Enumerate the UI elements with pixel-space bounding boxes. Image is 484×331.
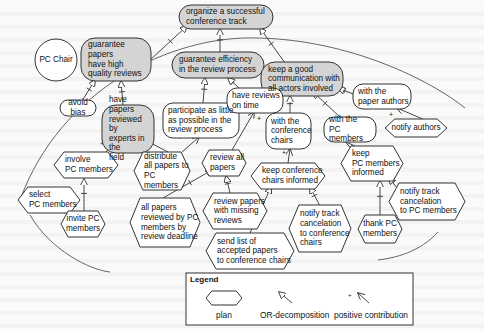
goal-model-diagram: +++++++ + PC Chairorganize a successful … [0, 0, 484, 331]
plus-sign: + [257, 115, 261, 122]
plan-p_involve[interactable] [54, 152, 118, 178]
legend-title: Legend [190, 275, 218, 284]
or-decomposition-link [260, 28, 285, 63]
plan-p_send_list[interactable] [206, 233, 294, 269]
goal-g_efficiency[interactable] [172, 52, 264, 78]
softgoal-s_pcmembers[interactable] [324, 117, 376, 142]
plan-p_review_all[interactable] [202, 150, 246, 176]
goal-g_quality[interactable] [81, 38, 151, 81]
plan-p_notify_pc[interactable] [389, 183, 465, 220]
positive-contribution-link [182, 137, 199, 152]
plan-p_keep_pc[interactable] [341, 146, 403, 181]
or-decomposition-link [121, 81, 123, 105]
softgoal-s_paperauthors[interactable] [353, 84, 411, 109]
plan-p_select[interactable] [18, 187, 80, 213]
softgoal-s_ontime[interactable] [227, 88, 283, 113]
legend-plan-icon [206, 291, 242, 305]
softgoal-s_bias[interactable] [60, 100, 96, 116]
plan-p_all_reviewed[interactable] [130, 198, 200, 247]
plus-sign: + [389, 111, 393, 118]
softgoal-s_confchairs[interactable] [266, 113, 311, 149]
positive-contribution-link [288, 149, 290, 163]
legend-label-plan: plan [216, 310, 232, 320]
positive-contribution-link [397, 108, 425, 120]
plan-p_keep_conf[interactable] [251, 163, 325, 189]
plan-p_notify_authors[interactable] [385, 119, 447, 137]
or-decomposition-link [226, 176, 230, 193]
plan-p_missing[interactable] [203, 193, 267, 229]
legend-label-or-decomposition: OR-decomposition [260, 310, 329, 320]
plan-p_notify_conf[interactable] [289, 205, 351, 252]
goal-g_experts[interactable] [102, 105, 154, 153]
plan-p_invite[interactable] [61, 211, 105, 237]
or-decomposition-link [310, 187, 320, 206]
diagram-canvas: +++++++ + [0, 0, 484, 331]
or-decomposition-link [228, 78, 239, 88]
goal-g_root[interactable] [179, 5, 273, 29]
svg-text:+: + [348, 292, 352, 298]
softgoal-s_participate[interactable] [163, 103, 239, 138]
plan-p_distribute[interactable] [134, 152, 190, 190]
or-decomposition-link [203, 78, 205, 103]
legend-label-positive-contribution: positive contribution [334, 310, 408, 320]
plan-p_thank[interactable] [358, 215, 402, 243]
or-decomposition-link [82, 80, 95, 101]
actor-pc-chair[interactable] [35, 39, 77, 81]
plus-sign: + [282, 149, 286, 156]
